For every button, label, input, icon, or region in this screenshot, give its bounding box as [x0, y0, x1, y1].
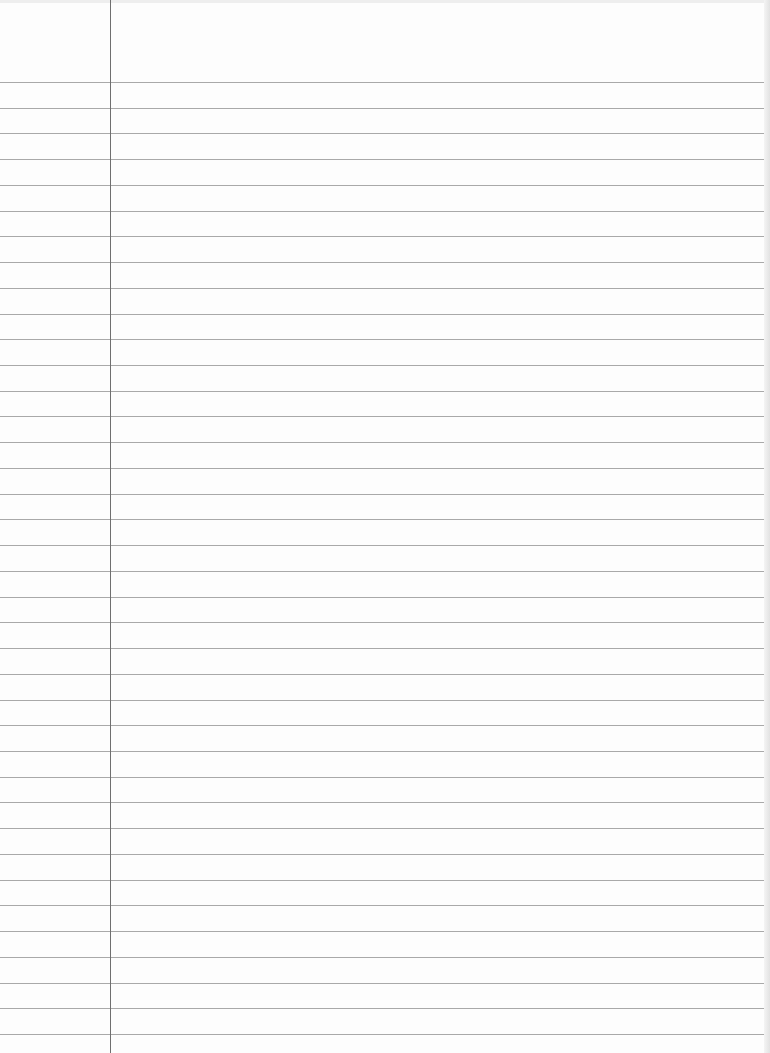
- ruled-line: [0, 262, 765, 263]
- ruled-line: [0, 725, 765, 726]
- margin-line: [110, 0, 111, 1053]
- ruled-line: [0, 751, 765, 752]
- ruled-line: [0, 622, 765, 623]
- ruled-line: [0, 545, 765, 546]
- paper-top-edge: [0, 0, 770, 3]
- ruled-line: [0, 571, 765, 572]
- ruled-line: [0, 468, 765, 469]
- ruled-line: [0, 674, 765, 675]
- ruled-line: [0, 700, 765, 701]
- ruled-line: [0, 597, 765, 598]
- ruled-line: [0, 494, 765, 495]
- ruled-line: [0, 1008, 765, 1009]
- ruled-line: [0, 185, 765, 186]
- ruled-line: [0, 1034, 765, 1035]
- ruled-line: [0, 648, 765, 649]
- ruled-line: [0, 339, 765, 340]
- ruled-line: [0, 905, 765, 906]
- paper-right-edge-shadow: [764, 0, 770, 1053]
- ruled-line: [0, 983, 765, 984]
- ruled-line: [0, 391, 765, 392]
- ruled-line: [0, 365, 765, 366]
- ruled-line: [0, 108, 765, 109]
- ruled-line: [0, 880, 765, 881]
- ruled-line: [0, 519, 765, 520]
- ruled-line: [0, 931, 765, 932]
- ruled-line: [0, 828, 765, 829]
- ruled-line: [0, 442, 765, 443]
- ruled-line: [0, 957, 765, 958]
- ruled-line: [0, 777, 765, 778]
- ruled-line: [0, 416, 765, 417]
- notebook-paper: [0, 0, 770, 1053]
- ruled-line: [0, 236, 765, 237]
- ruled-line: [0, 211, 765, 212]
- ruled-line: [0, 854, 765, 855]
- ruled-line: [0, 133, 765, 134]
- ruled-line: [0, 314, 765, 315]
- ruled-line: [0, 288, 765, 289]
- ruled-line: [0, 159, 765, 160]
- ruled-line: [0, 82, 765, 83]
- ruled-line: [0, 802, 765, 803]
